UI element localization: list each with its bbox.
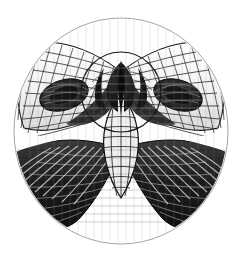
figure-root: Circular bilaterally-symmetric mesh engr… xyxy=(0,0,243,258)
circular-engraving xyxy=(0,0,243,258)
